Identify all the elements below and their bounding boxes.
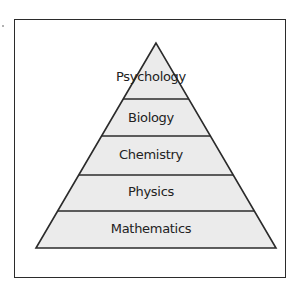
level-physics: Physics	[0, 184, 302, 200]
pyramid-graphic	[0, 0, 302, 290]
level-chemistry: Chemistry	[0, 147, 302, 163]
level-biology: Biology	[0, 110, 302, 126]
level-mathematics: Mathematics	[0, 221, 302, 237]
level-psychology: Psychology	[0, 69, 302, 85]
